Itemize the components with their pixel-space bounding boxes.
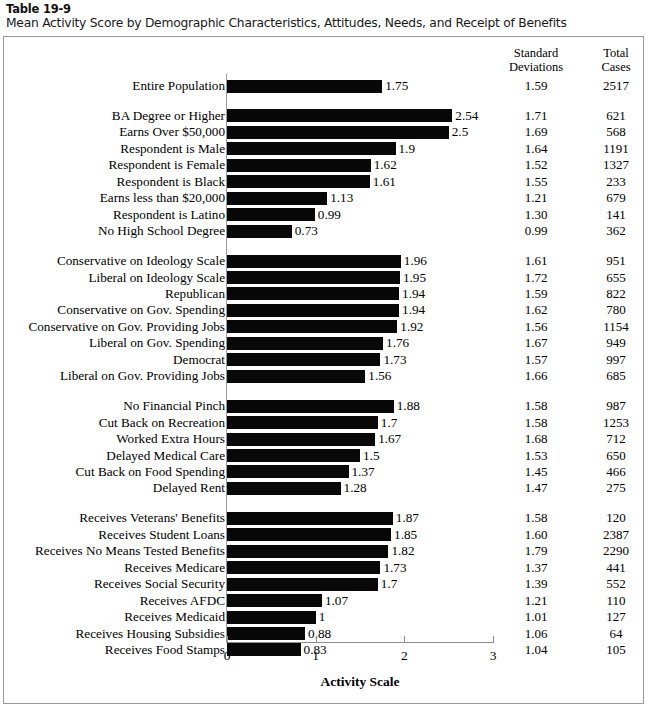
bar [227, 545, 388, 558]
total-cases-value: 120 [588, 510, 644, 526]
bar-row: Conservative on Gov. Providing Jobs1.921… [0, 319, 648, 335]
bar [227, 353, 380, 366]
total-cases-value: 1191 [588, 141, 644, 157]
bar-row-label: Receives AFDC [140, 593, 225, 609]
bar-row: Receives Medicaid11.01127 [0, 609, 648, 625]
bar-row-label: Delayed Rent [153, 480, 225, 496]
standard-deviation-value: 1.56 [497, 319, 575, 335]
bar-row-label: Liberal on Ideology Scale [88, 270, 225, 286]
bar-row-label: Entire Population [132, 78, 225, 94]
total-cases-value: 141 [588, 207, 644, 223]
total-cases-value: 441 [588, 560, 644, 576]
bar-row: Delayed Medical Care1.51.53650 [0, 448, 648, 464]
bar-row-label: Liberal on Gov. Providing Jobs [60, 368, 225, 384]
x-axis-tick [316, 636, 317, 643]
total-cases-value: 780 [588, 302, 644, 318]
total-cases-value: 127 [588, 609, 644, 625]
x-axis-title: Activity Scale [227, 674, 493, 690]
standard-deviation-value: 1.58 [497, 510, 575, 526]
bar-row: Respondent is Female1.621.521327 [0, 157, 648, 173]
standard-deviation-value: 1.69 [497, 124, 575, 140]
bar-row: BA Degree or Higher2.541.71621 [0, 108, 648, 124]
standard-deviation-value: 1.60 [497, 527, 575, 543]
bar [227, 175, 370, 188]
bar-row-label: Receives Housing Subsidies [76, 626, 225, 642]
bar [227, 528, 391, 541]
bar-value-label: 1.37 [349, 464, 375, 480]
total-cases-value: 1253 [588, 415, 644, 431]
standard-deviation-value: 1.67 [497, 335, 575, 351]
bar [227, 449, 360, 462]
bar-row-label: Conservative on Gov. Providing Jobs [28, 319, 225, 335]
bar-row-label: BA Degree or Higher [112, 108, 225, 124]
standard-deviation-value: 1.47 [497, 480, 575, 496]
total-cases-value: 997 [588, 352, 644, 368]
total-cases-value: 679 [588, 190, 644, 206]
bar-value-label: 1.61 [370, 174, 396, 190]
bar-row-label: Respondent is Black [117, 174, 225, 190]
standard-deviation-value: 1.52 [497, 157, 575, 173]
bar-row-label: Worked Extra Hours [116, 431, 225, 447]
bar-row: Conservative on Ideology Scale1.961.6195… [0, 253, 648, 269]
bar-value-label: 1.67 [375, 431, 401, 447]
standard-deviation-value: 1.01 [497, 609, 575, 625]
x-axis-tick-label: 3 [478, 648, 508, 664]
bar-value-label: 1.73 [380, 352, 406, 368]
total-cases-value: 275 [588, 480, 644, 496]
bar-value-label: 2.54 [452, 108, 478, 124]
standard-deviation-value: 1.64 [497, 141, 575, 157]
total-cases-value: 105 [588, 642, 644, 658]
standard-deviation-value: 1.58 [497, 398, 575, 414]
bar-row-label: Cut Back on Recreation [99, 415, 225, 431]
bar [227, 337, 383, 350]
bar-row-label: Receives Veterans' Benefits [79, 510, 225, 526]
standard-deviation-value: 1.66 [497, 368, 575, 384]
bar-value-label: 1 [316, 609, 326, 625]
bar-row-label: Earns less than $20,000 [100, 190, 225, 206]
bar-value-label: 0.99 [315, 207, 341, 223]
standard-deviation-value: 1.57 [497, 352, 575, 368]
standard-deviation-value: 1.61 [497, 253, 575, 269]
total-cases-value: 650 [588, 448, 644, 464]
bar-row-label: Receives Medicare [124, 560, 225, 576]
bar-value-label: 1.73 [380, 560, 406, 576]
total-cases-value: 1327 [588, 157, 644, 173]
standard-deviation-value: 1.21 [497, 593, 575, 609]
bar-chart-plot: Entire Population1.751.592517BA Degree o… [0, 0, 648, 710]
bar-row-label: Respondent is Male [120, 141, 225, 157]
bar [227, 109, 452, 122]
bar-value-label: 0.88 [305, 626, 331, 642]
standard-deviation-value: 1.59 [497, 286, 575, 302]
bar-row: Cut Back on Food Spending1.371.45466 [0, 464, 648, 480]
bar-row: Worked Extra Hours1.671.68712 [0, 431, 648, 447]
bar-row-label: Liberal on Gov. Spending [89, 335, 225, 351]
bar [227, 627, 305, 640]
standard-deviation-value: 1.71 [497, 108, 575, 124]
bar [227, 159, 371, 172]
bar [227, 433, 375, 446]
total-cases-value: 2387 [588, 527, 644, 543]
bar-row: Receives No Means Tested Benefits1.821.7… [0, 543, 648, 559]
bar-value-label: 1.75 [382, 78, 408, 94]
bar [227, 400, 394, 413]
standard-deviation-value: 1.58 [497, 415, 575, 431]
bar-value-label: 1.28 [341, 480, 367, 496]
total-cases-value: 64 [588, 626, 644, 642]
x-axis-tick [404, 636, 405, 643]
bar-value-label: 1.62 [371, 157, 397, 173]
total-cases-value: 568 [588, 124, 644, 140]
bar-row-label: Receives Social Security [94, 576, 225, 592]
total-cases-value: 2517 [588, 78, 644, 94]
total-cases-value: 712 [588, 431, 644, 447]
bar-row-label: Receives Food Stamps [105, 642, 225, 658]
bar-row-label: Democrat [173, 352, 225, 368]
standard-deviation-value: 0.99 [497, 223, 575, 239]
bar-row-label: Receives Student Loans [98, 527, 225, 543]
x-axis-tick [227, 636, 228, 643]
total-cases-value: 233 [588, 174, 644, 190]
bar-row-label: Republican [165, 286, 225, 302]
bar-row: Respondent is Latino0.991.30141 [0, 207, 648, 223]
total-cases-value: 552 [588, 576, 644, 592]
x-axis-tick-label: 0 [212, 648, 242, 664]
x-axis-line [227, 642, 493, 643]
